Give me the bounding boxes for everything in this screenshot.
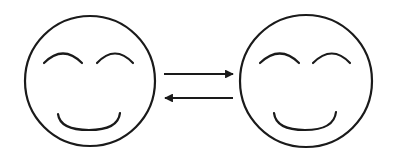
diagram-canvas: [0, 0, 393, 162]
left-face-right-eye: [97, 54, 133, 64]
right-face-outline: [240, 15, 372, 147]
right-face-mouth: [274, 112, 336, 130]
right-face: [240, 15, 372, 147]
left-face-outline: [25, 16, 155, 146]
right-face-left-eye: [260, 54, 299, 64]
left-face-mouth: [58, 113, 120, 130]
right-face-right-eye: [313, 54, 350, 64]
left-face: [25, 16, 155, 146]
left-face-left-eye: [44, 54, 82, 64]
